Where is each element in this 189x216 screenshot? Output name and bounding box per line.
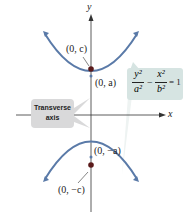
vertex-top-point [90,75,93,78]
focus-bottom-point [88,162,94,168]
x-axis-label: x [168,108,172,119]
callout-line-1: Transverse [31,103,74,113]
callout-pointer-up [74,98,90,114]
focus-bottom-leader [78,172,88,183]
vertex-top-label: (0, a) [95,77,116,88]
y-axis-arrow-icon [89,14,94,21]
focus-top-label: (0, c) [66,43,87,54]
equation-term2-denominator: b² [154,83,168,94]
callout-pointer-down [74,116,90,128]
equation-term1-numerator: y² [131,68,145,79]
focus-top-point [88,66,94,72]
x-axis-arrow-icon [159,113,166,118]
focus-top-leader [83,57,89,66]
focus-bottom-label: (0, −c) [58,184,85,195]
vertex-bottom-label: (0, −a) [94,145,121,156]
hyperbola-diagram [0,0,189,216]
y-axis-label: y [87,1,91,12]
callout-line-2: axis [31,113,74,123]
vertex-bottom-point [90,156,93,159]
equation-term1-denominator: a² [131,83,145,94]
transverse-axis-callout: Transverse axis [31,99,74,128]
equation-minus: − [147,77,153,88]
equation-box: y² a² − x² b² = 1 [127,68,183,100]
equation-equals: = 1 [169,77,181,87]
equation-term2-numerator: x² [154,68,168,79]
